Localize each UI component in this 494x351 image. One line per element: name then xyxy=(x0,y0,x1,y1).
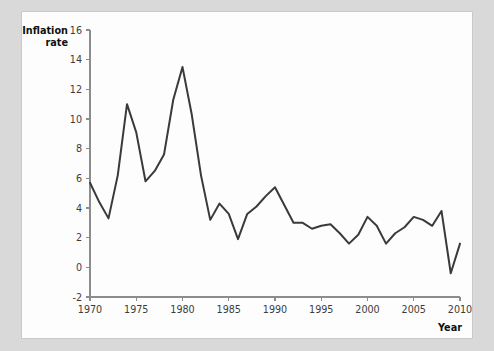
x-tick-label: 2005 xyxy=(402,304,426,315)
x-tick-label: 1980 xyxy=(170,304,194,315)
x-tick-label: 1970 xyxy=(78,304,102,315)
y-tick-label: 8 xyxy=(76,143,82,154)
y-tick-label: 10 xyxy=(70,114,82,125)
inflation-rate-series-line xyxy=(90,67,460,273)
x-tick-label: 1990 xyxy=(263,304,287,315)
x-axis: 197019751980198519901995200020052010 xyxy=(78,297,472,315)
y-tick-label: 0 xyxy=(76,262,82,273)
y-tick-label: -2 xyxy=(72,292,82,303)
y-tick-label: 2 xyxy=(76,232,82,243)
y-tick-label: 6 xyxy=(76,173,82,184)
chart-panel: -20246810121416 197019751980198519901995… xyxy=(22,12,472,338)
y-tick-label: 16 xyxy=(70,25,82,36)
y-tick-label: 12 xyxy=(70,84,82,95)
x-tick-label: 2000 xyxy=(355,304,379,315)
x-tick-label: 1995 xyxy=(309,304,333,315)
x-tick-label: 2010 xyxy=(448,304,472,315)
y-axis: -20246810121416 xyxy=(70,25,90,303)
y-axis-title-line2: rate xyxy=(45,37,68,48)
y-tick-label: 4 xyxy=(76,203,82,214)
x-tick-label: 1985 xyxy=(217,304,241,315)
y-axis-title-line1: Inflation xyxy=(22,25,68,36)
x-tick-label: 1975 xyxy=(124,304,148,315)
y-tick-label: 14 xyxy=(70,54,82,65)
inflation-rate-line-chart: -20246810121416 197019751980198519901995… xyxy=(22,12,472,338)
x-axis-title: Year xyxy=(437,322,462,333)
